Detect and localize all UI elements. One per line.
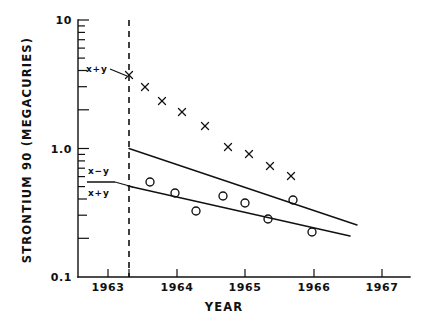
y-tick-label-10: 10	[55, 14, 72, 27]
y-axis-title: STRONTIUM 90 (MEGACURIES)	[20, 37, 34, 264]
annotation-ratio: x−y x+y	[87, 166, 133, 198]
data-point-x	[159, 98, 166, 105]
data-point-x	[267, 163, 274, 170]
annotation-xplusy-text: x+y	[86, 64, 108, 74]
series-xplusy-fit-line	[129, 149, 357, 226]
data-point-o	[192, 207, 200, 215]
data-point-o	[146, 178, 154, 186]
data-point-x	[142, 84, 149, 91]
data-point-x	[179, 109, 186, 116]
series-ratio-markers	[146, 178, 316, 236]
data-point-o	[171, 189, 179, 197]
data-point-o	[219, 192, 227, 200]
data-point-o	[264, 215, 272, 223]
annotation-ratio-denominator: x+y	[88, 188, 110, 198]
y-tick-label-1: 1.0	[51, 143, 72, 156]
x-tick-label-1964: 1964	[160, 281, 193, 294]
series-xplusy-markers	[126, 72, 295, 180]
y-tick-label-0-1: 0.1	[51, 271, 72, 284]
y-axis-title-text: STRONTIUM 90 (MEGACURIES)	[20, 37, 34, 264]
x-tick-label-1965: 1965	[228, 281, 261, 294]
annotation-ratio-leader	[115, 182, 133, 187]
data-point-x	[202, 123, 209, 130]
data-point-x	[225, 144, 232, 151]
x-tick-label-1966: 1966	[297, 281, 330, 294]
x-tick-label-1967: 1967	[365, 281, 398, 294]
data-point-o	[308, 228, 316, 236]
annotation-ratio-numerator: x−y	[88, 166, 110, 176]
axis-frame	[78, 20, 410, 277]
x-axis-title-text: YEAR	[204, 300, 244, 314]
x-axis-tick-labels: 1963 1964 1965 1966 1967	[91, 281, 398, 294]
data-point-x	[246, 151, 253, 158]
x-tick-label-1963: 1963	[91, 281, 124, 294]
y-axis-ticks	[78, 20, 89, 238]
annotation-xplusy: x+y	[86, 64, 127, 76]
data-point-x	[288, 173, 295, 180]
x-axis-ticks	[108, 269, 382, 277]
chart-figure: STRONTIUM 90 (MEGACURIES)	[0, 0, 421, 329]
annotation-xplusy-leader	[110, 69, 127, 76]
data-point-o	[241, 199, 249, 207]
y-axis-tick-labels: 10 1.0 0.1	[51, 14, 72, 284]
